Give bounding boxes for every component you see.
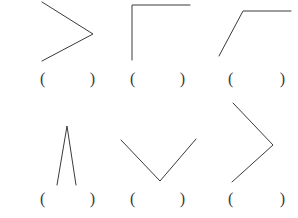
- open-paren: (: [40, 71, 45, 87]
- answer-blank-item-1[interactable]: ( ): [40, 70, 95, 88]
- figure-right-angle-corner: [132, 5, 190, 60]
- open-paren: (: [40, 191, 45, 207]
- close-paren: ): [280, 191, 285, 207]
- answer-blank-item-6[interactable]: ( ): [228, 190, 285, 208]
- open-paren: (: [130, 191, 135, 207]
- figure-narrow-caret-angle: [57, 126, 76, 185]
- open-paren: (: [130, 71, 135, 87]
- answer-blank-item-3[interactable]: ( ): [228, 70, 285, 88]
- close-paren: ): [90, 191, 95, 207]
- figure-obtuse-angle-flag: [219, 11, 291, 56]
- figure-greater-than-angle: [42, 2, 93, 61]
- close-paren: ): [180, 71, 185, 87]
- open-paren: (: [228, 191, 233, 207]
- open-paren: (: [228, 71, 233, 87]
- close-paren: ): [280, 71, 285, 87]
- figure-wide-v-angle: [121, 139, 196, 181]
- figure-large-greater-than-angle: [232, 103, 273, 182]
- close-paren: ): [90, 71, 95, 87]
- close-paren: ): [180, 191, 185, 207]
- figures-layer: [0, 0, 298, 218]
- answer-blank-item-2[interactable]: ( ): [130, 70, 185, 88]
- answer-blank-item-4[interactable]: ( ): [40, 190, 95, 208]
- answer-blank-item-5[interactable]: ( ): [130, 190, 185, 208]
- worksheet-page: ( ) ( ) ( ) ( ) ( ) ( ): [0, 0, 298, 218]
